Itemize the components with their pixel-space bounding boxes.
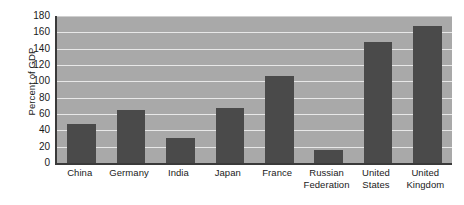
bar-slot <box>106 16 155 163</box>
x-axis-tick-label-china: China <box>55 167 104 190</box>
x-axis-tick-label-united-states: UnitedStates <box>351 167 400 190</box>
y-axis-tick-label: 0 <box>18 158 50 168</box>
bar-india <box>166 138 195 163</box>
bar-united-states <box>364 42 393 163</box>
bar-germany <box>117 110 146 163</box>
y-axis-tick-label: 140 <box>18 44 50 54</box>
bar-united-kingdom <box>413 26 442 163</box>
y-axis-tick-labels: 020406080100120140160180 <box>18 16 50 163</box>
bar-russian-federation <box>314 150 343 163</box>
y-axis-tick-label: 120 <box>18 60 50 70</box>
bar-japan <box>216 108 245 163</box>
bar-slot <box>255 16 304 163</box>
bar-chart-figure: Percent of GDP 020406080100120140160180 … <box>0 0 464 205</box>
y-axis-tick-label: 80 <box>18 93 50 103</box>
x-axis-tick-label-germany: Germany <box>104 167 153 190</box>
bar-slot <box>205 16 254 163</box>
bar-slot <box>403 16 452 163</box>
x-axis-tick-label-russian-federation: RussianFederation <box>302 167 351 190</box>
y-axis-tick-label: 100 <box>18 76 50 86</box>
y-axis-tick-label: 160 <box>18 27 50 37</box>
x-axis-tick-label-india: India <box>154 167 203 190</box>
bar-slot <box>353 16 402 163</box>
bars-layer <box>57 16 452 163</box>
bar-france <box>265 76 294 163</box>
y-axis-tick-label: 60 <box>18 109 50 119</box>
bar-slot <box>57 16 106 163</box>
x-axis-tick-labels: ChinaGermanyIndiaJapanFranceRussianFeder… <box>55 167 450 190</box>
bar-slot <box>304 16 353 163</box>
bar-slot <box>156 16 205 163</box>
y-axis-tick-label: 180 <box>18 11 50 21</box>
bar-china <box>67 124 96 163</box>
x-axis-tick-label-france: France <box>253 167 302 190</box>
y-axis-tick-label: 40 <box>18 125 50 135</box>
x-axis-tick-label-japan: Japan <box>203 167 252 190</box>
plot-area <box>55 16 452 165</box>
x-axis-tick-label-united-kingdom: UnitedKingdom <box>401 167 450 190</box>
y-axis-tick-label: 20 <box>18 142 50 152</box>
